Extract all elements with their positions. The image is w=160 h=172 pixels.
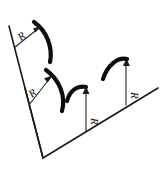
arc-1-group: R [14, 22, 51, 62]
arc-4-group: R [103, 58, 141, 105]
diagram-canvas: R R R R [0, 0, 160, 172]
radius-label-4: R [129, 91, 141, 99]
arc-2 [46, 70, 63, 111]
arrow-head-2 [44, 75, 53, 82]
arc-3-group: R [67, 86, 101, 131]
arc-2-group: R [25, 70, 63, 111]
arc-4 [103, 59, 127, 79]
radius-diagram-figure: R R R R [0, 0, 160, 172]
radius-label-1: R [14, 29, 28, 43]
radius-label-3: R [89, 117, 101, 125]
